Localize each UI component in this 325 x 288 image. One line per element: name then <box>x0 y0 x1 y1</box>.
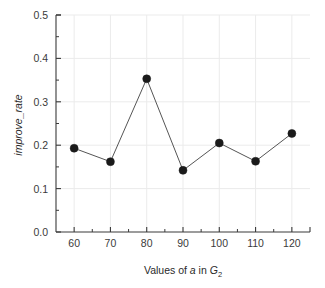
data-point-marker: 110, 0.163 <box>252 157 260 165</box>
data-point-marker: 120, 0.227 <box>288 129 296 137</box>
y-tick-label: 0.1 <box>33 183 48 195</box>
x-tick-label: 60 <box>68 237 80 249</box>
data-point-marker: 60, 0.193 <box>70 144 78 152</box>
x-tick-label: 120 <box>283 237 301 249</box>
y-tick-label: 0.3 <box>33 96 48 108</box>
line-chart: 60708090100110120 0.00.10.20.30.40.5 60,… <box>0 0 325 288</box>
x-tick-label: 110 <box>247 237 264 249</box>
y-axis-title: improve_rate <box>12 94 24 155</box>
y-tick-label: 0.0 <box>33 226 48 238</box>
svg-text:improve_rate: improve_rate <box>12 94 24 155</box>
y-tick-label: 0.2 <box>33 139 48 151</box>
y-tick-label: 0.5 <box>33 9 48 21</box>
x-tick-label: 90 <box>177 237 189 249</box>
data-point-marker: 80, 0.353 <box>143 75 151 83</box>
x-tick-label: 70 <box>105 237 117 249</box>
data-point-marker: 70, 0.162 <box>106 158 114 166</box>
y-tick-label: 0.4 <box>33 52 48 64</box>
data-point-marker: 100, 0.205 <box>215 139 223 147</box>
chart-background <box>0 0 325 288</box>
chart-figure: 60708090100110120 0.00.10.20.30.40.5 60,… <box>0 0 325 288</box>
x-tick-label: 100 <box>211 237 229 249</box>
x-tick-label: 80 <box>141 237 153 249</box>
data-point-marker: 90, 0.142 <box>179 166 187 174</box>
